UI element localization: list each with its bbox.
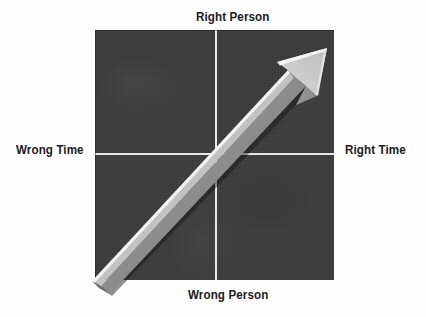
quadrant-diagram: Right Person Wrong Time Right Time Wrong… [0, 0, 426, 317]
horizontal-axis-line [95, 153, 334, 155]
quadrant-panel [95, 30, 334, 280]
label-wrong-time: Wrong Time [16, 143, 84, 157]
arrow-tail-cap [92, 281, 110, 294]
label-right-time: Right Time [345, 143, 406, 157]
label-right-person: Right Person [196, 10, 269, 24]
label-wrong-person: Wrong Person [188, 288, 268, 302]
vertical-axis-line [215, 30, 217, 280]
